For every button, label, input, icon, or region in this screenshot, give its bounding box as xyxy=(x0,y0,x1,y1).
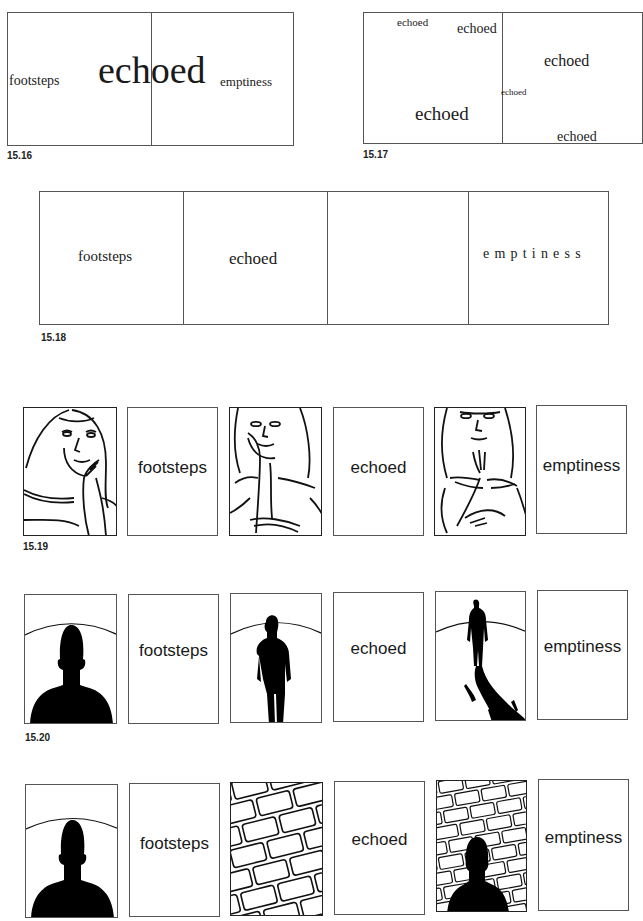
panel-divider xyxy=(327,192,328,325)
panel-text: footsteps xyxy=(127,407,218,536)
head-silhouette-arch xyxy=(25,595,117,724)
word-footsteps: footsteps xyxy=(9,73,60,89)
panel-text: emptiness xyxy=(538,779,629,911)
word-footsteps: footsteps xyxy=(128,458,217,478)
figure-caption: 15.19 xyxy=(23,541,48,552)
word-echoed-3: echoed xyxy=(415,103,469,125)
silhouette-against-brick-wall xyxy=(437,781,527,912)
word-echoed-large: echoed xyxy=(98,50,206,90)
figure-15-16-panel: footsteps echoed emptiness xyxy=(7,12,294,146)
panel-text: echoed xyxy=(333,592,424,722)
distant-figure-long-shadow xyxy=(436,592,526,721)
panel-image xyxy=(230,782,323,916)
walking-figure-silhouette xyxy=(231,594,322,723)
figure-caption: 15.20 xyxy=(25,732,50,743)
panel-text: footsteps xyxy=(129,783,220,917)
panel-text: emptiness xyxy=(536,405,627,534)
panel-divider xyxy=(183,192,184,325)
word-echoed: echoed xyxy=(334,458,423,478)
word-emptiness: emptiness xyxy=(539,828,628,848)
word-echoed: echoed xyxy=(335,830,424,850)
word-emptiness-spaced: emptiness xyxy=(483,246,586,262)
panel-image xyxy=(436,780,527,912)
word-echoed-6: echoed xyxy=(557,129,597,144)
word-footsteps: footsteps xyxy=(130,834,219,854)
panel-image xyxy=(23,407,117,536)
figure-caption: 15.17 xyxy=(363,149,388,160)
woman-chin-on-hand-drawing xyxy=(230,408,322,536)
figure-caption: 15.18 xyxy=(41,332,66,343)
word-echoed-4: echoed xyxy=(501,87,526,97)
panel-text: echoed xyxy=(333,407,424,536)
panel-text: emptiness xyxy=(537,590,628,720)
word-echoed-2: echoed xyxy=(457,21,497,37)
panel-image xyxy=(229,407,322,536)
panel-image xyxy=(435,591,526,721)
figure-15-18-strip: footsteps echoed emptiness xyxy=(39,191,609,325)
word-echoed: echoed xyxy=(334,639,423,659)
panel-divider xyxy=(468,192,469,325)
word-emptiness: emptiness xyxy=(220,74,272,90)
panel-image xyxy=(25,784,118,918)
panel-image xyxy=(230,593,322,723)
word-echoed-5: echoed xyxy=(544,52,589,70)
panel-divider xyxy=(502,13,503,144)
word-emptiness: emptiness xyxy=(538,637,627,657)
panel-text: echoed xyxy=(334,781,425,915)
woman-hand-on-cheek-drawing xyxy=(24,408,117,536)
brick-wall xyxy=(231,783,323,916)
panel-text: footsteps xyxy=(128,594,219,724)
panel-image xyxy=(24,594,117,724)
figure-caption: 15.16 xyxy=(7,150,32,161)
word-footsteps: footsteps xyxy=(129,641,218,661)
figure-15-17-panel: echoed echoed echoed echoed echoed echoe… xyxy=(363,12,643,144)
woman-hand-to-chin-drawing xyxy=(435,408,526,536)
word-footsteps: footsteps xyxy=(78,248,132,265)
word-echoed: echoed xyxy=(229,249,277,269)
head-silhouette-arch xyxy=(26,785,118,918)
word-echoed-1: echoed xyxy=(397,16,428,28)
word-emptiness: emptiness xyxy=(537,456,626,476)
panel-image xyxy=(434,407,526,536)
